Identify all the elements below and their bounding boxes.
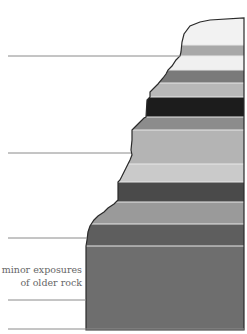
rock-layer-layer-5	[80, 83, 247, 97]
rock-layer-layer-10	[80, 182, 247, 202]
rock-layer-layer-2	[80, 45, 247, 56]
rock-layer-layer-8	[80, 130, 247, 164]
caption-line-1: minor exposures	[2, 263, 82, 276]
older-rock-caption: minor exposures of older rock	[2, 263, 82, 289]
rock-layer-layer-11	[80, 202, 247, 224]
caption-line-2: of older rock	[2, 276, 82, 289]
rock-layer-layer-6	[80, 97, 247, 117]
rock-layer-cap-layer	[80, 18, 247, 45]
rock-layer-layer-7	[80, 117, 247, 130]
rock-layer-layer-9	[80, 164, 247, 182]
rock-layer-layer-12	[80, 224, 247, 246]
rock-layer-older-rock	[80, 246, 247, 330]
rock-layers	[80, 18, 247, 330]
rock-layer-layer-3	[80, 56, 247, 70]
